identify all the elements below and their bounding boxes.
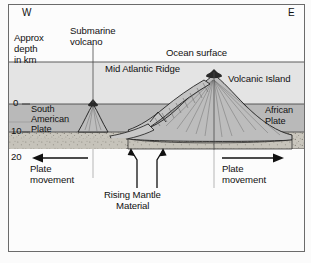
volcanic-island-label: Volcanic Island bbox=[228, 74, 291, 85]
submarine-volcano-label-line1: Submarine bbox=[70, 26, 116, 37]
west-sediment-apron bbox=[9, 137, 126, 149]
compass-west-label: W bbox=[22, 8, 31, 19]
submarine-volcano-crater bbox=[88, 103, 98, 106]
african-plate-line2: Plate bbox=[265, 116, 285, 127]
depth-tick-20: 20 bbox=[11, 152, 21, 163]
mid-atlantic-ridge-label: Mid Atlantic Ridge bbox=[105, 64, 180, 75]
south-american-plate-line2: American bbox=[31, 114, 69, 125]
african-plate-line1: African bbox=[265, 105, 293, 116]
ocean-surface-label: Ocean surface bbox=[166, 48, 227, 59]
plate-movement-left-line1: Plate bbox=[30, 164, 51, 175]
rising-mantle-label-line1: Rising Mantle bbox=[104, 190, 161, 201]
south-american-plate-line1: South bbox=[31, 104, 55, 115]
compass-east-label: E bbox=[288, 8, 295, 19]
rising-mantle-label-line2: Material bbox=[116, 201, 149, 212]
plate-movement-right-line2: movement bbox=[222, 175, 266, 186]
submarine-volcano-label-line2: volcano bbox=[70, 37, 102, 48]
axis-caption-line2: depth bbox=[14, 44, 38, 55]
axis-caption-line1: Approx bbox=[14, 33, 44, 44]
axis-caption-line3: in km bbox=[14, 55, 36, 66]
diagram-page: W E Approx depth in km 0 10 20 Submarine… bbox=[0, 0, 311, 263]
depth-tick-0: 0 bbox=[13, 98, 18, 109]
plate-movement-left-line2: movement bbox=[30, 175, 74, 186]
depth-tick-10: 10 bbox=[11, 126, 21, 137]
south-american-plate-line3: Plate bbox=[31, 124, 51, 135]
plate-movement-right-line1: Plate bbox=[222, 164, 243, 175]
